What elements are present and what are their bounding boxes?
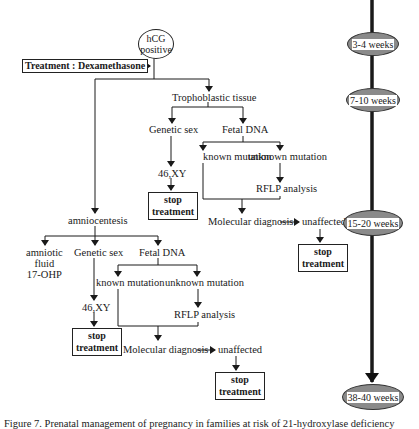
hcg-line2: positive [140,44,172,55]
hcg-line1: hCG [147,33,166,44]
amnio-known-mutation-label: known mutation [96,277,165,289]
cvs-unaffected-label: unaffected [302,216,346,228]
timeline-38-40-weeks: 38-40 weeks [342,384,404,410]
amnio-rflp-label: RFLP analysis [174,309,235,321]
amnio-stop-treatment-box: stop treatment [72,328,122,356]
stop-line2: treatment [219,386,261,398]
cvs-unknown-mutation-label: unknown mutation [248,151,327,163]
hcg-positive-node: hCG positive [138,29,174,59]
treatment-label: Treatment : Dexamethasone [25,60,145,71]
cvs-karyotype-label: 46,XY [158,168,186,180]
stop-line2: treatment [152,206,194,218]
cvs-stop-treatment-box-2: stop treatment [298,244,348,272]
cvs-genetic-sex-label: Genetic sex [149,124,198,136]
cvs-molecular-diagnosis-label: Molecular diagnosis [208,216,293,228]
amniotic-line3: 17-OHP [26,269,63,280]
amnio-genetic-sex-label: Genetic sex [74,247,123,259]
stop-line1: stop [76,330,118,342]
timeline-label: 15-20 weeks [347,218,400,229]
stop-line1: stop [302,246,344,258]
timeline-7-10-weeks: 7-10 weeks [346,88,400,112]
figure-caption: Figure 7. Prenatal management of pregnan… [4,418,394,429]
timeline-3-4-weeks: 3-4 weeks [347,32,399,56]
trophoblastic-tissue-label: Trophoblastic tissue [172,92,257,104]
cvs-stop-treatment-box: stop treatment [148,192,198,220]
amnio-unaffected-label: unaffected [218,344,262,356]
treatment-box: Treatment : Dexamethasone [22,59,148,73]
timeline-label: 7-10 weeks [349,95,397,106]
timeline-label: 38-40 weeks [347,392,400,403]
amnio-molecular-diagnosis-label: Molecular diagnosis [123,344,208,356]
amnio-stop-treatment-box-2: stop treatment [215,372,265,400]
stop-line2: treatment [302,258,344,270]
cvs-fetal-dna-label: Fetal DNA [222,124,268,136]
amnio-fetal-dna-label: Fetal DNA [139,247,185,259]
amniocentesis-label: amniocentesis [68,215,127,227]
stop-line1: stop [219,374,261,386]
amnio-unknown-mutation-label: unknown mutation [165,277,244,289]
cvs-rflp-label: RFLP analysis [256,183,317,195]
amnio-karyotype-label: 46,XY [82,302,110,314]
stop-line2: treatment [76,342,118,354]
amniotic-line1: amniotic [26,247,63,258]
timeline-label: 3-4 weeks [352,39,395,50]
stop-line1: stop [152,194,194,206]
timeline-15-20-weeks: 15-20 weeks [343,210,403,236]
amniotic-fluid-label: amniotic fluid 17-OHP [26,247,63,280]
amniotic-line2: fluid [26,258,63,269]
